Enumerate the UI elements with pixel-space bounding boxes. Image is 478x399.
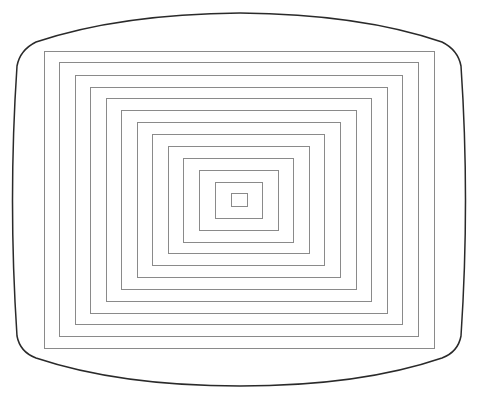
nested-rectangle-6 (122, 111, 357, 290)
nested-rectangle-3 (76, 76, 403, 325)
screen-bezel-outline (13, 13, 466, 386)
nested-rectangle-9 (169, 147, 310, 254)
nested-rectangle-2 (60, 63, 419, 337)
diagram-canvas (0, 0, 478, 399)
nested-rectangle-1 (45, 52, 435, 349)
nested-rectangle-13 (232, 194, 248, 207)
nested-rectangle-8 (153, 135, 325, 266)
crt-screen-diagram (0, 0, 478, 399)
nested-rectangle-12 (216, 183, 263, 219)
nested-rectangle-5 (107, 99, 372, 302)
nested-rectangle-11 (200, 171, 279, 231)
concentric-rectangles (45, 52, 435, 349)
nested-rectangle-4 (91, 88, 388, 314)
nested-rectangle-7 (138, 123, 341, 278)
